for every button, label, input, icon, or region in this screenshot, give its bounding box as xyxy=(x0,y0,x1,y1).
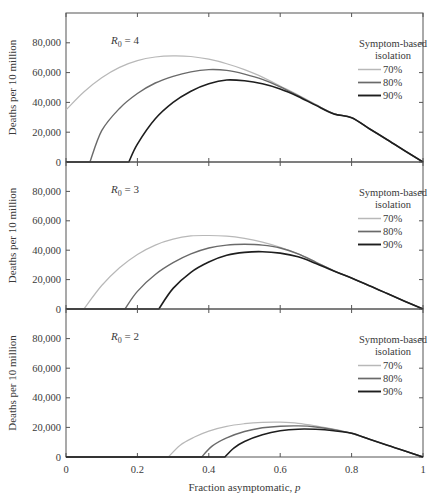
x-tick-label: 0.4 xyxy=(202,464,216,475)
x-tick-label: 0.8 xyxy=(345,464,358,475)
series-line-70pct xyxy=(66,235,423,309)
legend-subtitle: isolation xyxy=(375,199,412,210)
y-tick-label: 20,000 xyxy=(32,422,61,433)
legend-entry: 70% xyxy=(383,360,403,371)
y-tick-label: 40,000 xyxy=(32,245,61,256)
legend-entry: 80% xyxy=(383,373,403,384)
series-line-90pct xyxy=(66,80,423,162)
legend-entry: 70% xyxy=(383,213,403,224)
y-tick-label: 40,000 xyxy=(32,97,61,108)
chart-canvas: 020,00040,00060,00080,000Deaths per 10 m… xyxy=(0,0,438,503)
y-tick-label: 80,000 xyxy=(32,37,61,48)
y-tick-label: 20,000 xyxy=(32,274,61,285)
y-tick-label: 40,000 xyxy=(32,392,61,403)
y-tick-label: 0 xyxy=(56,452,61,463)
legend-entry: 90% xyxy=(383,239,403,250)
legend-entry: 90% xyxy=(383,90,403,101)
plot-frame xyxy=(66,13,423,162)
y-tick-label: 0 xyxy=(56,157,61,168)
x-axis-title: Fraction asymptomatic, p xyxy=(188,481,301,493)
x-tick-label: 0.6 xyxy=(274,464,287,475)
panel-bottom: 020,00040,00060,00080,00000.20.40.60.81D… xyxy=(6,309,428,475)
x-tick-label: 0.2 xyxy=(131,464,144,475)
legend-subtitle: isolation xyxy=(375,50,412,61)
legend-entry: 90% xyxy=(383,386,403,397)
figure: 020,00040,00060,00080,000Deaths per 10 m… xyxy=(0,0,438,503)
y-axis-title: Deaths per 10 million xyxy=(6,39,18,135)
y-tick-label: 80,000 xyxy=(32,186,61,197)
y-tick-label: 60,000 xyxy=(32,215,61,226)
y-axis-title: Deaths per 10 million xyxy=(6,187,18,283)
r0-annotation: R0 = 2 xyxy=(110,330,139,345)
r0-annotation: R0 = 4 xyxy=(110,34,139,49)
y-tick-label: 60,000 xyxy=(32,67,61,78)
legend-subtitle: isolation xyxy=(375,346,412,357)
panel-top: 020,00040,00060,00080,000Deaths per 10 m… xyxy=(6,13,428,168)
plot-frame xyxy=(66,162,423,309)
y-axis-title: Deaths per 10 million xyxy=(6,335,18,431)
y-tick-label: 0 xyxy=(56,304,61,315)
series-line-80pct xyxy=(66,70,423,162)
panel-middle: 020,00040,00060,00080,000Deaths per 10 m… xyxy=(6,162,428,315)
series-line-90pct xyxy=(66,429,423,457)
legend-title: Symptom-based xyxy=(359,187,428,198)
series-line-90pct xyxy=(66,252,423,309)
series-line-80pct xyxy=(66,244,423,309)
legend-entry: 80% xyxy=(383,226,403,237)
y-tick-label: 80,000 xyxy=(32,333,61,344)
x-tick-label: 1 xyxy=(420,464,425,475)
legend-entry: 80% xyxy=(383,77,403,88)
r0-annotation: R0 = 3 xyxy=(110,183,139,198)
x-tick-label: 0 xyxy=(63,464,68,475)
legend-title: Symptom-based xyxy=(359,334,428,345)
legend-entry: 70% xyxy=(383,64,403,75)
y-tick-label: 60,000 xyxy=(32,363,61,374)
y-tick-label: 20,000 xyxy=(32,127,61,138)
plot-frame xyxy=(66,309,423,457)
legend-title: Symptom-based xyxy=(359,38,428,49)
